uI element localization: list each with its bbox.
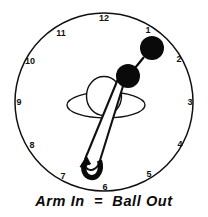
hour-label-12: 12 (99, 13, 109, 23)
caption-text: Arm In = Ball Out (0, 193, 208, 209)
hour-label-7: 7 (60, 171, 65, 181)
ball-lower (116, 64, 140, 88)
ball-upper (140, 36, 164, 60)
hour-label-3: 3 (187, 97, 192, 107)
hour-label-1: 1 (145, 25, 150, 35)
clock-diagram-svg: 12 1 2 3 4 5 6 7 8 9 10 11 (0, 0, 208, 196)
hour-label-8: 8 (29, 140, 34, 150)
hour-label-6: 6 (102, 182, 107, 192)
hour-label-4: 4 (177, 139, 182, 149)
hour-label-11: 11 (56, 28, 66, 38)
hour-label-9: 9 (16, 97, 21, 107)
golf-swing-clock-diagram: 12 1 2 3 4 5 6 7 8 9 10 11 Arm I (0, 0, 208, 217)
hour-label-10: 10 (25, 56, 35, 66)
hour-label-5: 5 (146, 169, 151, 179)
hour-label-2: 2 (176, 54, 181, 64)
ball-connector-line (135, 57, 144, 68)
